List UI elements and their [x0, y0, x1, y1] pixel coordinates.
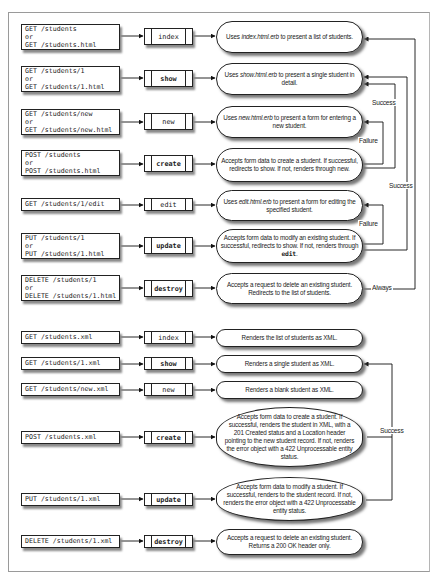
description-text: Accepts form data to modify a student. I… [217, 483, 362, 515]
label-failure-create: Failure [358, 137, 379, 144]
request-line: POST /students.xml [25, 433, 116, 441]
description-destroy-xml: Accepts a request to delete an existing … [216, 529, 363, 555]
action-update-xml: update [144, 493, 193, 506]
request-line: GET /students.html [25, 41, 116, 49]
description-text: Uses show.html.erb to present a single s… [217, 71, 362, 87]
request-line: or [25, 33, 116, 41]
request-line: or [25, 284, 116, 292]
action-show-xml: show [144, 357, 193, 370]
request-line: GET /students/new [25, 110, 116, 118]
request-line: GET /students/1.html [25, 83, 116, 91]
description-text: Uses new.html.erb to present a form for … [217, 114, 362, 130]
action-new: new [144, 113, 193, 130]
description-destroy: Accepts a request to delete an existing … [216, 273, 363, 304]
description-create: Accepts form data to create a student. I… [216, 148, 363, 182]
request-line: GET /students/1.xml [25, 359, 116, 367]
request-post-students-xml: POST /students.xml [21, 431, 120, 444]
request-get-edit: GET /students/1/edit [21, 198, 120, 211]
description-text: Accepts form data to create a student. I… [217, 413, 362, 461]
request-line: or [25, 159, 116, 167]
description-text: Uses edit.html.erb to present a form for… [217, 198, 362, 214]
action-edit: edit [144, 198, 193, 211]
request-get-students: GET /students or GET /students.html [21, 24, 120, 50]
description-text: Accepts form data to create a student. I… [217, 157, 362, 173]
request-get-new: GET /students/new or GET /students/new.h… [21, 109, 120, 135]
action-index-xml: index [144, 331, 193, 344]
request-line: POST /students [25, 151, 116, 159]
request-line: GET /students [25, 25, 116, 33]
request-line: GET /students/new.html [25, 126, 116, 134]
description-create-xml: Accepts form data to create a student. I… [216, 407, 363, 467]
request-line: GET /students/1 [25, 67, 116, 75]
request-line: DELETE /students/1.xml [25, 537, 116, 545]
request-line: GET /students.xml [25, 333, 116, 341]
description-show: Uses show.html.erb to present a single s… [216, 63, 363, 95]
label-always-destroy: Always [371, 284, 393, 291]
action-destroy-xml: destroy [144, 535, 193, 548]
action-index: index [144, 28, 193, 45]
description-text: Renders a single student as XML. [245, 360, 335, 368]
description-index: Uses index.html.erb to present a list of… [216, 21, 363, 53]
description-update-xml: Accepts form data to modify a student. I… [216, 477, 363, 521]
request-line: PUT /students/1 [25, 234, 116, 242]
label-failure-update: Failure [358, 220, 379, 227]
description-text: Accepts a request to delete an existing … [217, 281, 362, 297]
request-line: or [25, 118, 116, 126]
description-text: Accepts a request to delete an existing … [217, 534, 362, 550]
description-update: Accepts form data to modify an existing … [216, 229, 363, 263]
action-update: update [144, 237, 193, 254]
label-success-update: Success [388, 182, 414, 189]
description-show-xml: Renders a single student as XML. [216, 355, 363, 373]
request-line: or [25, 75, 116, 83]
action-destroy: destroy [144, 280, 193, 297]
action-show: show [144, 70, 193, 87]
request-line: GET /students/new.xml [25, 385, 116, 393]
action-create: create [144, 155, 193, 172]
request-put-student: PUT /students/1 or PUT /students/1.html [21, 233, 120, 259]
action-new-xml: new [144, 383, 193, 396]
request-get-student-xml: GET /students/1.xml [21, 357, 120, 370]
description-text: Uses index.html.erb to present a list of… [226, 33, 353, 41]
request-line: DELETE /students/1 [25, 276, 116, 284]
action-create-xml: create [144, 431, 193, 444]
request-line: GET /students/1/edit [25, 200, 116, 208]
request-line: PUT /students/1.html [25, 250, 116, 258]
label-success-xml: Success [379, 427, 405, 434]
request-get-new-xml: GET /students/new.xml [21, 383, 120, 396]
description-new-xml: Renders a blank student as XML. [216, 381, 363, 399]
description-text: Renders the list of students as XML. [242, 334, 338, 342]
request-put-student-xml: PUT /students/1.xml [21, 493, 120, 506]
request-get-student: GET /students/1 or GET /students/1.html [21, 66, 120, 92]
description-edit: Uses edit.html.erb to present a form for… [216, 190, 363, 221]
label-success-create: Success [371, 99, 397, 106]
description-text: Accepts form data to modify an existing … [217, 234, 362, 258]
request-delete-student: DELETE /students/1 or DELETE /students/1… [21, 275, 120, 301]
description-new: Uses new.html.erb to present a form for … [216, 106, 363, 138]
request-get-students-xml: GET /students.xml [21, 331, 120, 344]
request-line: POST /students.html [25, 167, 116, 175]
request-line: or [25, 242, 116, 250]
description-index-xml: Renders the list of students as XML. [216, 329, 363, 347]
request-line: PUT /students/1.xml [25, 495, 116, 503]
request-line: DELETE /students/1.html [25, 292, 116, 300]
request-delete-student-xml: DELETE /students/1.xml [21, 535, 120, 548]
description-text: Renders a blank student as XML. [245, 386, 333, 394]
request-post-students: POST /students or POST /students.html [21, 150, 120, 176]
